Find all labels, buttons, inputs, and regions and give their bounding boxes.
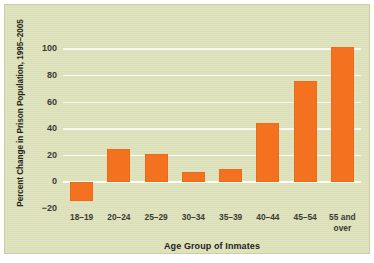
y-tick-label-80: 80: [29, 71, 57, 80]
bar: [256, 123, 279, 183]
x-tick-label: 25–29: [138, 212, 175, 238]
x-tick-label: 30–34: [175, 212, 212, 238]
gridline-80: [63, 75, 361, 77]
y-tick-label-100: 100: [29, 44, 57, 53]
bar: [219, 169, 242, 182]
y-tick-label-40: 40: [29, 124, 57, 133]
gridline-100: [63, 48, 361, 50]
x-tick-label: 45–54: [287, 212, 324, 238]
x-tick-label: 18–19: [63, 212, 100, 238]
bar: [294, 81, 317, 182]
y-tick-label--20: −20: [29, 204, 57, 213]
x-tick-label: 20–24: [100, 212, 137, 238]
x-tick-label: 55 and over: [324, 212, 361, 238]
bar: [107, 149, 130, 182]
x-tick-label: 40–44: [249, 212, 286, 238]
chart-figure: Percent Change in Prison Population, 199…: [0, 0, 374, 263]
bar: [70, 182, 93, 201]
y-tick-label-60: 60: [29, 98, 57, 107]
chart-plate: Percent Change in Prison Population, 199…: [4, 4, 370, 254]
x-axis-tick-labels: 18–1920–2425–2930–3435–3940–4445–5455 an…: [63, 212, 361, 238]
bar: [182, 172, 205, 183]
x-axis-title: Age Group of Inmates: [63, 241, 361, 251]
x-tick-label: 35–39: [212, 212, 249, 238]
plot-area: [63, 36, 361, 209]
bar: [145, 154, 168, 182]
y-axis-title: Percent Change in Prison Population, 199…: [14, 19, 28, 207]
y-tick-label-0: 0: [29, 177, 57, 186]
bar: [331, 47, 354, 183]
y-tick-label-20: 20: [29, 151, 57, 160]
